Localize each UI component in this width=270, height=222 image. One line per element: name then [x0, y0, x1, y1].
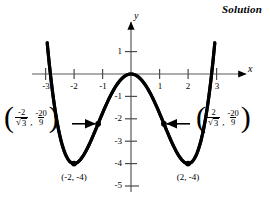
y-tick-label-neg3: -3: [106, 136, 122, 146]
y-axis-ticks: [125, 52, 139, 186]
solution-heading: Solution: [222, 3, 262, 15]
right-y-denominator: 9: [230, 117, 236, 127]
x-tick-label-2: 2: [179, 81, 197, 91]
y-tick-label-neg1: -1: [106, 91, 122, 101]
y-tick-label-neg2: -2: [106, 113, 122, 123]
right-x-radicand: 3: [213, 118, 219, 128]
inflection-point-right: [161, 121, 167, 127]
left-x-denominator: √ 3: [15, 117, 28, 128]
right-x-denominator: √ 3: [207, 117, 220, 128]
y-tick-label-neg5: -5: [106, 180, 122, 190]
x-tick-label-neg3: -3: [37, 81, 55, 91]
right-y-fraction: -20 9: [226, 109, 239, 127]
left-x-fraction: -2 √ 3: [15, 108, 28, 128]
left-x-radicand: 3: [21, 118, 27, 128]
right-inflection-annotation: ( 2 √ 3 , -20 9 ): [196, 108, 251, 128]
graph-figure: Solution x y -3 -2 -1 1 2 3 1 -1 -2 -3 -…: [0, 0, 270, 222]
x-tick-label-neg1: -1: [94, 81, 112, 91]
right-comma: ,: [221, 117, 225, 128]
left-x-numerator: -2: [17, 108, 26, 117]
minimum-point-left: [71, 161, 77, 167]
x-tick-label-neg2: -2: [65, 81, 83, 91]
x-tick-label-3: 3: [208, 81, 226, 91]
left-inflection-annotation: ( -2 √ 3 , -20 9 ): [4, 108, 59, 128]
x-tick-label-1: 1: [151, 81, 169, 91]
left-y-fraction: -20 9: [34, 109, 47, 127]
y-axis-label: y: [134, 10, 138, 21]
x-axis-label: x: [248, 63, 252, 74]
left-comma: ,: [29, 117, 33, 128]
inflection-point-left: [95, 121, 101, 127]
minimum-point-right: [185, 161, 191, 167]
left-minimum-label: (-2, -4): [44, 172, 104, 182]
right-y-numerator: -20: [226, 109, 239, 118]
left-y-numerator: -20: [34, 109, 47, 118]
left-y-denominator: 9: [38, 117, 44, 127]
right-x-numerator: 2: [210, 108, 216, 117]
y-tick-label-neg4: -4: [106, 158, 122, 168]
right-minimum-label: (2, -4): [158, 172, 218, 182]
y-tick-label-1: 1: [106, 46, 122, 56]
right-x-fraction: 2 √ 3: [207, 108, 220, 128]
